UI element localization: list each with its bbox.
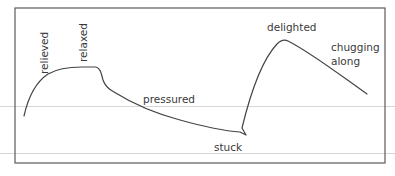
label-chugging: chugging: [331, 41, 380, 53]
label-along: along: [331, 55, 360, 67]
label-stuck: stuck: [214, 141, 242, 153]
label-relieved: relieved: [38, 32, 50, 74]
emotion-curve: [24, 40, 367, 135]
label-pressured: pressured: [143, 93, 195, 105]
diagram-frame: [15, 8, 385, 163]
label-relaxed: relaxed: [77, 23, 89, 62]
label-delighted: delighted: [267, 21, 317, 33]
journey-diagram: [0, 0, 395, 176]
